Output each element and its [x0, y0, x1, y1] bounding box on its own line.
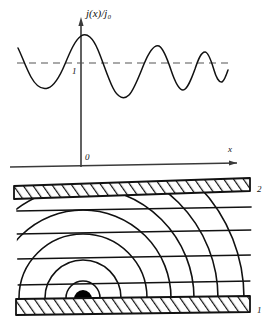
x-axis-label: x [227, 144, 232, 154]
wavefront-arc-7 [0, 137, 244, 298]
top-plate [14, 178, 250, 199]
y-axis-label: j(x)/j₀ [84, 7, 111, 20]
bottom-plate-label: 1 [257, 305, 262, 315]
y-axis-arrowhead [78, 17, 83, 26]
wavefront-group [0, 137, 252, 298]
top-plate-label: 2 [257, 184, 262, 194]
current-density-curve [18, 35, 228, 98]
origin-label: 0 [85, 152, 90, 162]
plane-front-line-3 [16, 230, 252, 234]
x-axis-arrowhead [229, 160, 237, 165]
wavefront-arc-3 [19, 234, 147, 298]
figure-svg: j(x)/j₀ 1 0 x [0, 0, 271, 323]
plot-panel: j(x)/j₀ 1 0 x [10, 7, 237, 167]
y-tick-label-one: 1 [72, 66, 77, 76]
bottom-plate [16, 296, 250, 315]
x-axis [10, 163, 237, 167]
figure-root: j(x)/j₀ 1 0 x [0, 0, 271, 323]
wavefront-arc-5 [0, 187, 194, 298]
